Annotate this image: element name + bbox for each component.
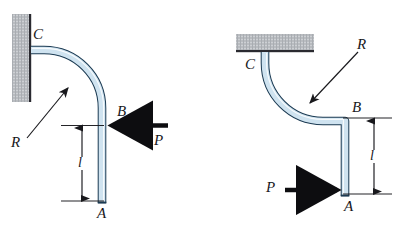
label-p-right: P (266, 180, 275, 195)
label-b-right: B (352, 100, 361, 115)
radius-leader-right (310, 52, 358, 103)
pipe-member (265, 52, 349, 196)
label-c-left: C (33, 27, 43, 42)
engineering-figure-canvas (0, 0, 400, 238)
dimension-l-right (343, 118, 392, 194)
left-panel (12, 14, 168, 203)
label-r-right: R (357, 37, 366, 52)
radius-leader-left (27, 88, 68, 138)
label-a-right: A (344, 199, 353, 214)
label-b-left: B (117, 104, 126, 119)
label-p-left: P (154, 133, 163, 148)
figure-root: C R B A l P C R B A l P (0, 0, 400, 238)
label-a-left: A (97, 206, 106, 221)
label-c-right: C (245, 57, 255, 72)
dimension-l-left (61, 126, 104, 202)
label-r-left: R (11, 135, 20, 150)
right-panel (236, 34, 392, 196)
label-l-left: l (78, 156, 82, 170)
wall-support-vertical (12, 14, 31, 102)
wall-support-horizontal (236, 34, 314, 52)
label-l-right: l (370, 149, 374, 163)
